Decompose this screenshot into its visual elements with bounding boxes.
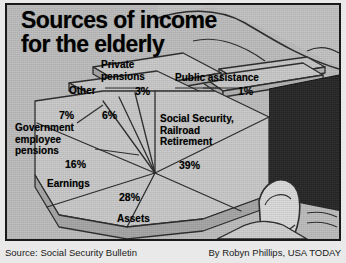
- page-title: Sources of income for the elderly: [21, 9, 251, 56]
- slice-label-public-assistance: Public assistance: [175, 72, 259, 84]
- slice-value-other: 3%: [135, 85, 150, 97]
- slice-value-assets: 28%: [119, 191, 140, 203]
- slice-label-assets: Assets: [117, 213, 150, 225]
- credit-note: By Robyn Phillips, USA TODAY: [208, 247, 341, 258]
- slice-label-other: Other: [69, 85, 96, 97]
- slice-label-earnings: Earnings: [47, 178, 90, 190]
- slice-value-government-pensions: 7%: [59, 109, 74, 121]
- graphic-frame: Sources of income for the elderly Privat…: [5, 3, 341, 241]
- title-line-1: Sources of income: [21, 9, 251, 33]
- slice-value-public-assistance: 1%: [238, 85, 253, 97]
- slice-label-government-pensions: Government employee pensions: [15, 122, 91, 157]
- slice-label-social-security: Social Security, Railroad Retirement: [160, 113, 240, 148]
- caption-bar: Source: Social Security Bulletin By Roby…: [5, 245, 341, 259]
- slice-value-earnings: 16%: [65, 158, 86, 170]
- slice-value-social-security: 39%: [179, 159, 200, 171]
- infographic-root: Sources of income for the elderly Privat…: [0, 0, 346, 263]
- title-line-2: for the elderly: [21, 33, 251, 57]
- slice-value-private-pensions: 6%: [102, 109, 117, 121]
- source-note: Source: Social Security Bulletin: [5, 247, 137, 258]
- slice-label-private-pensions: Private pensions: [101, 59, 163, 82]
